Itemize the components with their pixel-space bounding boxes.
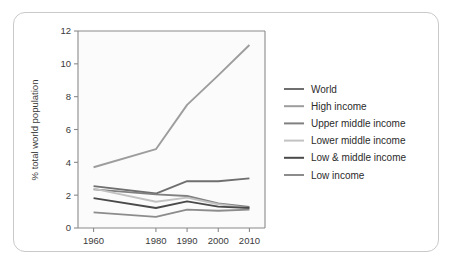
y-axis-ticks: 024681012	[60, 25, 78, 233]
x-tick-label: 2010	[239, 235, 260, 246]
y-tick-label: 12	[60, 25, 71, 36]
legend-label-high-income: High income	[311, 101, 367, 112]
legend-label-low-income: Low income	[311, 170, 365, 181]
line-chart: 024681012 19601980199020002010 % total w…	[0, 0, 454, 266]
x-axis-ticks: 19601980199020002010	[83, 228, 260, 246]
y-tick-label: 2	[66, 190, 71, 201]
y-tick-label: 6	[66, 124, 71, 135]
legend-label-low-middle-income: Low & middle income	[311, 152, 406, 163]
x-tick-label: 1980	[145, 235, 166, 246]
chart-legend: WorldHigh incomeUpper middle incomeLower…	[284, 84, 406, 181]
legend-label-lower-middle-income: Lower middle income	[311, 135, 406, 146]
legend-label-upper-middle-income: Upper middle income	[311, 118, 406, 129]
legend-label-world: World	[311, 84, 337, 95]
y-axis-title: % total world population	[29, 80, 40, 181]
plot-background	[78, 31, 265, 228]
y-tick-label: 4	[66, 157, 71, 168]
y-tick-label: 10	[60, 58, 71, 69]
x-tick-label: 2000	[208, 235, 229, 246]
x-tick-label: 1960	[83, 235, 104, 246]
y-tick-label: 0	[66, 222, 71, 233]
y-tick-label: 8	[66, 91, 71, 102]
chart-svg: 024681012 19601980199020002010 % total w…	[0, 0, 454, 266]
x-tick-label: 1990	[177, 235, 198, 246]
